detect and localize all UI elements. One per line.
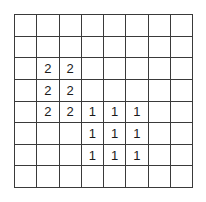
grid-cell-empty — [37, 166, 59, 188]
grid-cell-empty — [126, 36, 148, 58]
grid-cell-empty — [104, 15, 126, 37]
grid-cell-empty — [15, 166, 37, 188]
grid-cell-empty — [170, 101, 192, 123]
grid-cell-empty — [15, 101, 37, 123]
grid-cell-empty — [59, 36, 81, 58]
grid-cell-empty — [170, 36, 192, 58]
grid-cell-empty — [15, 15, 37, 37]
grid-cell-value: 1 — [81, 123, 103, 145]
grid-cell-empty — [81, 166, 103, 188]
grid-cell-value: 2 — [37, 101, 59, 123]
grid-cell-value: 1 — [126, 101, 148, 123]
grid-cell-value: 1 — [104, 123, 126, 145]
grid-row: 22 — [15, 58, 193, 80]
grid-cell-empty — [148, 58, 170, 80]
grid-cell-empty — [81, 79, 103, 101]
grid-cell-value: 1 — [81, 101, 103, 123]
grid-row: 111 — [15, 144, 193, 166]
grid-cell-empty — [59, 15, 81, 37]
grid-cell-empty — [104, 36, 126, 58]
grid-cell-empty — [148, 123, 170, 145]
grid-row — [15, 36, 193, 58]
grid-cell-empty — [59, 123, 81, 145]
grid-cell-empty — [170, 15, 192, 37]
grid-cell-empty — [126, 166, 148, 188]
grid-cell-value: 2 — [59, 58, 81, 80]
grid-cell-empty — [170, 58, 192, 80]
grid-row: 22 — [15, 79, 193, 101]
grid-cell-empty — [81, 15, 103, 37]
grid-cell-empty — [37, 15, 59, 37]
grid-cell-empty — [81, 36, 103, 58]
grid-row: 22111 — [15, 101, 193, 123]
grid-cell-empty — [148, 144, 170, 166]
grid-cell-empty — [15, 144, 37, 166]
number-grid-table: 222222111111111 — [14, 14, 193, 188]
grid-cell-empty — [126, 15, 148, 37]
grid-cell-empty — [170, 79, 192, 101]
grid-cell-empty — [148, 36, 170, 58]
grid-cell-empty — [15, 58, 37, 80]
grid-cell-empty — [170, 166, 192, 188]
grid-cell-empty — [59, 166, 81, 188]
grid-cell-empty — [37, 36, 59, 58]
grid-cell-value: 1 — [126, 123, 148, 145]
grid-cell-value: 2 — [59, 79, 81, 101]
number-grid-figure: 222222111111111 — [14, 14, 193, 188]
grid-cell-empty — [104, 79, 126, 101]
grid-cell-empty — [104, 166, 126, 188]
grid-cell-value: 2 — [37, 58, 59, 80]
grid-cell-empty — [170, 144, 192, 166]
grid-cell-empty — [104, 58, 126, 80]
grid-cell-empty — [126, 58, 148, 80]
grid-cell-value: 1 — [104, 101, 126, 123]
grid-cell-empty — [15, 36, 37, 58]
grid-cell-empty — [81, 58, 103, 80]
grid-row — [15, 15, 193, 37]
grid-cell-empty — [15, 79, 37, 101]
grid-cell-empty — [148, 79, 170, 101]
grid-cell-empty — [148, 15, 170, 37]
grid-cell-empty — [15, 123, 37, 145]
grid-cell-value: 1 — [126, 144, 148, 166]
grid-body: 222222111111111 — [15, 15, 193, 188]
grid-cell-empty — [126, 79, 148, 101]
grid-cell-value: 1 — [81, 144, 103, 166]
grid-cell-empty — [59, 144, 81, 166]
grid-cell-empty — [37, 123, 59, 145]
grid-cell-value: 2 — [37, 79, 59, 101]
grid-cell-empty — [148, 101, 170, 123]
grid-cell-value: 1 — [104, 144, 126, 166]
grid-cell-empty — [148, 166, 170, 188]
grid-row: 111 — [15, 123, 193, 145]
grid-cell-value: 2 — [59, 101, 81, 123]
grid-row — [15, 166, 193, 188]
grid-cell-empty — [170, 123, 192, 145]
grid-cell-empty — [37, 144, 59, 166]
